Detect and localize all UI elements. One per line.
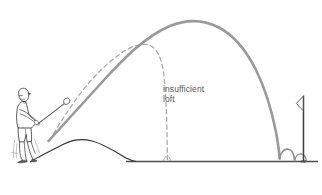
- annotation-loft: loft: [163, 94, 175, 104]
- golfer-leg-front: [20, 142, 23, 161]
- golfer-swinging-club: [17, 88, 40, 162]
- golfer-shoe-front: [18, 160, 27, 162]
- diagram-canvas: [0, 0, 322, 195]
- golf-club: [38, 98, 70, 124]
- golf-trajectory-illustration: insufficient loft: [0, 0, 322, 195]
- flagstick-with-flag: [296, 96, 303, 162]
- golfer-shorts: [18, 128, 31, 142]
- foreground-mound: [30, 140, 136, 162]
- golfer-leg-front-back: [24, 142, 27, 161]
- club-head: [64, 98, 70, 104]
- golfer-leg-rear-back: [31, 142, 35, 154]
- annotation-insufficient: insufficient: [163, 84, 204, 94]
- flag-cloth: [296, 96, 303, 111]
- club-shaft: [38, 103, 64, 123]
- golfer-head: [19, 93, 29, 101]
- golfer-torso: [17, 101, 36, 128]
